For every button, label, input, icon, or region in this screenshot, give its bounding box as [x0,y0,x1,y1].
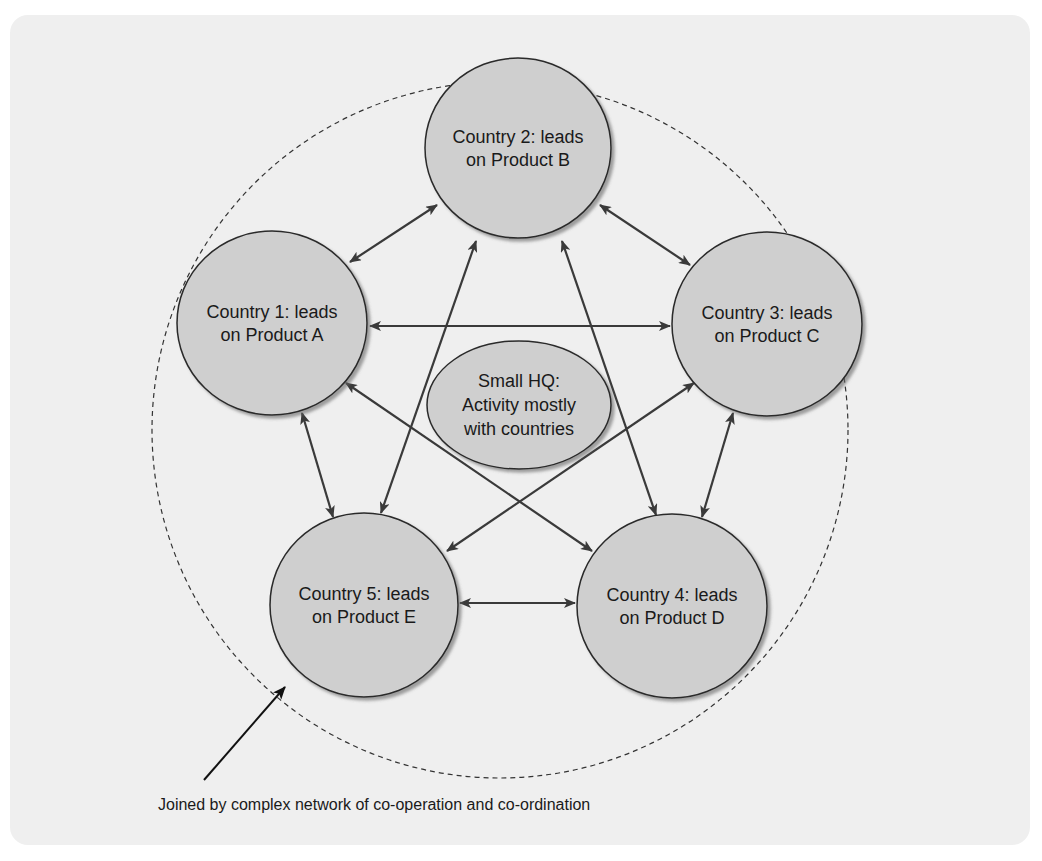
node-c5-label-line1: Country 5: leads [298,584,429,604]
node-c2-shape [425,58,611,238]
node-hq: Small HQ: Activity mostly with countries [427,341,611,469]
node-c5-label-line2: on Product E [312,607,416,627]
node-c3: Country 3: leads on Product C [672,232,862,416]
node-c1: Country 1: leads on Product A [177,231,367,415]
edge-c3-c4 [702,413,733,517]
node-c2-label-line1: Country 2: leads [452,127,583,147]
node-c3-shape [672,232,862,416]
node-hq-label-line2: Activity mostly [462,395,576,415]
node-c1-label-line1: Country 1: leads [206,302,337,322]
node-hq-label-line3: with countries [463,419,574,439]
node-c2: Country 2: leads on Product B [425,58,611,238]
boundary-pointer-arrow [204,687,285,780]
node-c3-label-line1: Country 3: leads [701,303,832,323]
node-hq-label-line1: Small HQ: [478,371,560,391]
node-c4-label-line2: on Product D [619,608,724,628]
node-c4: Country 4: leads on Product D [577,514,767,698]
edge-c1-c2 [350,205,437,262]
node-c5: Country 5: leads on Product E [270,513,458,697]
edge-c1-c5 [302,413,333,517]
network-diagram: Country 2: leads on Product B Country 1:… [0,0,1042,861]
node-c4-shape [577,514,767,698]
node-c2-label-line2: on Product B [466,150,570,170]
boundary-caption: Joined by complex network of co-operatio… [158,796,590,813]
node-c3-label-line2: on Product C [714,326,819,346]
edge-c2-c3 [600,205,690,265]
node-c4-label-line1: Country 4: leads [606,585,737,605]
node-c1-shape [177,231,367,415]
node-c5-shape [270,513,458,697]
node-c1-label-line2: on Product A [220,325,323,345]
